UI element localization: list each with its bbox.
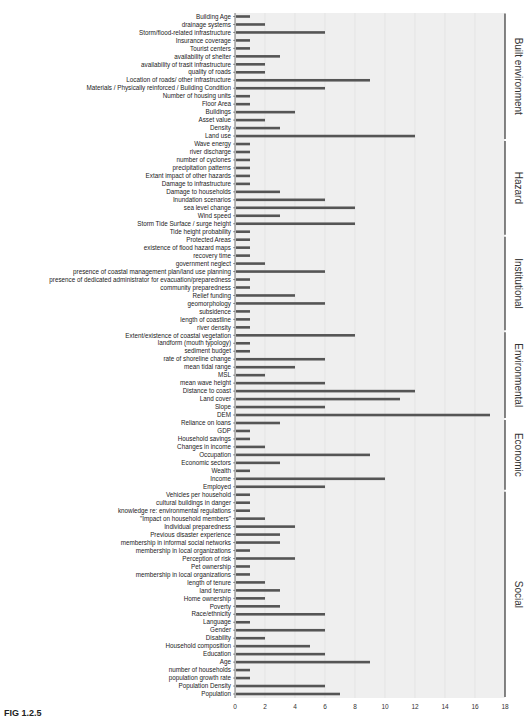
- category-label: length of coastline: [180, 316, 231, 324]
- bar: [236, 517, 265, 520]
- category-label: Employed: [203, 483, 231, 491]
- category-label: precipitation patterns: [173, 164, 231, 172]
- category-label: Tide height probability: [170, 228, 232, 236]
- category-label: Previous disaster experience: [150, 531, 231, 539]
- category-label: membership in local organizations: [136, 547, 231, 555]
- bar: [236, 669, 250, 672]
- category-label: geomorphology: [188, 300, 232, 308]
- bar: [236, 685, 325, 688]
- bar: [236, 334, 355, 337]
- bar: [236, 398, 400, 401]
- category-label: Gender: [210, 626, 231, 633]
- bar: [236, 222, 355, 225]
- category-label: availability of trasit infrastructure: [141, 61, 231, 69]
- bar: [236, 151, 250, 154]
- bar: [236, 270, 325, 273]
- bar: [236, 438, 250, 441]
- bar: [236, 159, 250, 162]
- category-label: Distance to coast: [183, 387, 232, 394]
- category-label: MSL: [218, 371, 231, 378]
- category-label: presence of dedicated administrator for …: [49, 276, 231, 284]
- category-label: cultural buildings in danger: [156, 499, 231, 507]
- category-label: availability of shelter: [174, 53, 231, 61]
- bar: [236, 183, 250, 186]
- bar: [236, 342, 250, 345]
- x-tick-label: 2: [263, 703, 267, 710]
- x-tick-label: 14: [441, 703, 449, 710]
- bar: [236, 63, 265, 66]
- category-label: Population: [201, 690, 231, 698]
- bar: [236, 23, 265, 26]
- bar: [236, 294, 295, 297]
- category-label: river density: [197, 324, 232, 332]
- category-label: number of households: [169, 666, 231, 673]
- bar: [236, 310, 250, 313]
- category-label: sea level change: [184, 204, 232, 212]
- category-label: recovery time: [193, 252, 231, 260]
- category-label: "Impact on household members": [140, 515, 231, 523]
- category-label: Household savings: [178, 435, 231, 443]
- category-label: Storm/flood-related infrastructure: [139, 29, 232, 36]
- bar: [236, 87, 325, 90]
- category-label: Individual preparedness: [164, 523, 231, 531]
- bar: [236, 119, 265, 122]
- bar: [236, 278, 250, 281]
- bar: [236, 645, 310, 648]
- bar: [236, 485, 325, 488]
- category-label: Number of housing units: [163, 92, 231, 100]
- category-label: Inundation scenarios: [173, 196, 231, 203]
- bar: [236, 549, 250, 552]
- bar: [236, 135, 415, 138]
- bar: [236, 477, 385, 480]
- category-label: Poverty: [210, 603, 232, 611]
- bar: [236, 414, 490, 417]
- bar: [236, 358, 325, 361]
- bar: [236, 254, 250, 257]
- x-tick-label: 10: [381, 703, 389, 710]
- bar: [236, 47, 250, 50]
- bar: [236, 597, 265, 600]
- bar: [236, 613, 325, 616]
- x-tick-label: 8: [353, 703, 357, 710]
- x-tick-label: 18: [501, 703, 509, 710]
- category-label: Slope: [215, 403, 232, 411]
- category-label: Vehicles per household: [166, 491, 232, 499]
- category-label: Land use: [205, 132, 231, 139]
- bar: [236, 454, 370, 457]
- bar: [236, 653, 325, 656]
- bar: [236, 462, 280, 465]
- category-label: Perception of risk: [182, 555, 231, 563]
- category-label: community preparedness: [160, 284, 231, 292]
- x-tick-label: 0: [233, 703, 237, 710]
- category-label: Age: [220, 658, 232, 666]
- bar: [236, 79, 370, 82]
- bar: [236, 533, 280, 536]
- bar: [236, 557, 295, 560]
- bar: [236, 565, 250, 568]
- bar: [236, 39, 250, 42]
- bar: [236, 541, 280, 544]
- figure-caption: FIG 1.2.5: [4, 708, 42, 717]
- group-label: Built environment: [513, 38, 524, 115]
- bar: [236, 286, 250, 289]
- x-tick-label: 6: [323, 703, 327, 710]
- category-label: existence of flood hazard maps: [144, 244, 231, 252]
- bar: [236, 629, 325, 632]
- bar: [236, 302, 325, 305]
- group-label: Social: [513, 581, 524, 608]
- bar: [236, 374, 265, 377]
- category-label: landform (mouth typology): [158, 339, 231, 347]
- category-label: land tenure: [199, 587, 231, 594]
- category-label: government neglect: [176, 260, 232, 268]
- bar: [236, 230, 250, 233]
- bar: [236, 111, 295, 114]
- bar: [236, 589, 280, 592]
- category-label: mean tidal range: [184, 363, 231, 371]
- category-label: Wind speed: [198, 212, 232, 220]
- category-label: Tourist centers: [190, 45, 231, 52]
- category-label: Location of roads/ other infrastructure: [126, 76, 231, 83]
- category-label: subsidence: [199, 308, 231, 315]
- bar: [236, 605, 280, 608]
- category-label: DEM: [217, 411, 231, 418]
- bar: [236, 127, 280, 130]
